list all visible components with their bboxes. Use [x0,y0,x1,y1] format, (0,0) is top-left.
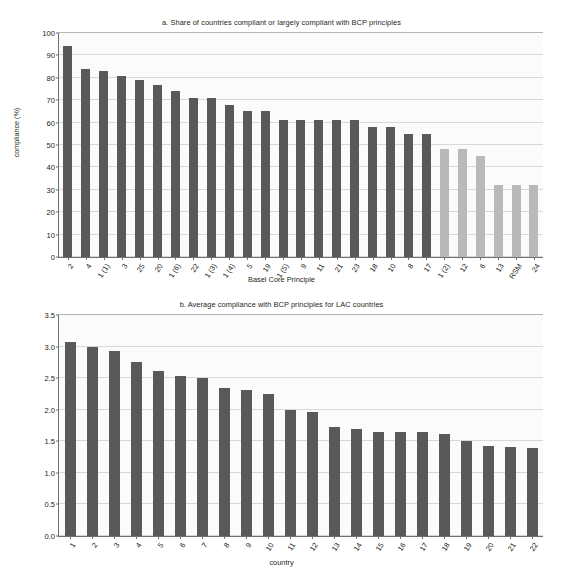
x-axis-tick-mark [211,257,212,260]
x-axis-tick-mark [180,536,181,539]
chart-b-plot-area: 0.00.51.01.52.02.53.03.51234567891011121… [58,315,543,537]
x-axis-tick-mark [265,257,266,260]
bar [153,371,164,536]
x-axis-tick-label: 7 [200,541,210,549]
chart-a-title: a. Share of countries compliant or large… [0,18,563,27]
chart-panel-b: b. Average compliance with BCP principle… [0,300,563,573]
x-axis-tick-label: 14 [351,541,363,553]
x-axis-tick-label: 17 [422,262,434,274]
bar [314,120,323,257]
x-axis-tick-mark [193,257,194,260]
x-axis-tick-label: 3 [119,262,129,270]
x-axis-tick-label: 8 [222,541,232,549]
x-axis-tick-label: 2 [66,262,76,270]
bar [404,134,413,257]
bar [225,105,234,257]
bar [117,76,126,257]
x-axis-tick-label: 18 [368,262,380,274]
x-axis-tick-mark [400,536,401,539]
x-axis-tick-mark [378,536,379,539]
bar [422,134,431,257]
x-axis-tick-label: 5 [245,262,255,270]
x-axis-tick-label: 17 [417,541,429,553]
x-axis-tick-label: 12 [307,541,319,553]
chart-panel-a: a. Share of countries compliant or large… [0,18,563,293]
bar [87,347,98,536]
bar [512,185,521,257]
bar [135,80,144,257]
x-axis-tick-mark [391,257,392,260]
bar [505,447,516,536]
chart-b-x-axis-label: country [0,558,563,567]
bar [81,69,90,257]
x-axis-tick-mark [70,536,71,539]
x-axis-tick-label: 20 [483,541,495,553]
x-axis-tick-mark [319,257,320,260]
x-axis-tick-label: 13 [329,541,341,553]
x-axis-tick-label: 13 [493,262,505,274]
x-axis-tick-mark [283,257,284,260]
x-axis-tick-label: 21 [332,262,344,274]
bar [189,98,198,257]
bar [351,429,362,536]
bar [171,91,180,257]
bar [307,412,318,536]
bar [395,432,406,536]
bar [332,120,341,257]
x-axis-tick-mark [488,536,489,539]
x-axis-tick-label: 24 [529,262,541,274]
bar [279,120,288,257]
x-axis-tick-mark [268,536,269,539]
bar-series [59,33,543,257]
x-axis-tick-label: 5 [156,541,166,549]
bar [373,432,384,536]
x-axis-tick-mark [104,257,105,260]
bar [386,127,395,257]
x-axis-tick-label: 23 [350,262,362,274]
bar [261,111,270,257]
x-axis-tick-mark [247,257,248,260]
x-axis-tick-mark [532,536,533,539]
x-axis-tick-label: 8 [406,262,416,270]
bar [63,46,72,257]
x-axis-tick-label: 25 [135,262,147,274]
x-axis-tick-label: 3 [112,541,122,549]
x-axis-tick-mark [422,536,423,539]
x-axis-tick-mark [246,536,247,539]
x-axis-tick-label: 22 [189,262,201,274]
chart-a-x-axis-label: Basel Core Principle [0,275,563,284]
x-axis-tick-label: 19 [461,541,473,553]
x-axis-tick-mark [301,257,302,260]
x-axis-tick-mark [158,257,159,260]
x-axis-tick-label: 4 [84,262,94,270]
x-axis-tick-mark [373,257,374,260]
bar [440,149,449,257]
bar [458,149,467,257]
x-axis-tick-mark [426,257,427,260]
x-axis-tick-label: 2 [90,541,100,549]
x-axis-tick-mark [136,536,137,539]
bar [527,448,538,536]
bar [439,434,450,536]
x-axis-tick-mark [175,257,176,260]
x-axis-tick-label: 6 [178,541,188,549]
x-axis-tick-label: 18 [439,541,451,553]
x-axis-tick-mark [86,257,87,260]
x-axis-tick-mark [462,257,463,260]
x-axis-tick-label: 11 [315,262,327,273]
x-axis-tick-mark [122,257,123,260]
bar [529,185,538,257]
bar [243,111,252,257]
x-axis-tick-label: 4 [134,541,144,549]
x-axis-tick-label: 22 [527,541,539,553]
x-axis-tick-mark [229,257,230,260]
x-axis-tick-mark [480,257,481,260]
x-axis-tick-label: 12 [458,262,470,274]
x-axis-tick-label: 21 [505,541,517,553]
x-axis-tick-mark [355,257,356,260]
bar-series [59,315,543,536]
x-axis-tick-mark [140,257,141,260]
bar [476,156,485,257]
x-axis-tick-mark [290,536,291,539]
x-axis-tick-mark [68,257,69,260]
